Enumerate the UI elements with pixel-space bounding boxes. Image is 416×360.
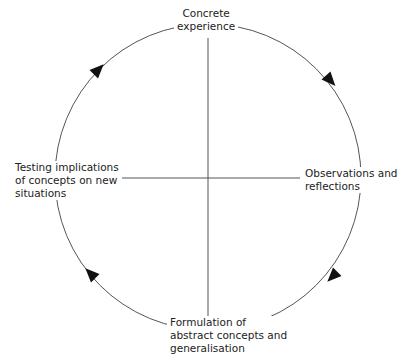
stage-line: reflections [305,180,398,193]
stage-observations-reflections: Observations and reflections [302,167,401,193]
stage-line: Observations and [305,167,398,180]
stage-line: Testing implications [15,161,119,174]
stage-line: Formulation of [170,316,287,329]
stage-line: situations [15,187,119,200]
stage-line: abstract concepts and [170,329,287,342]
arrow-top-right-icon [322,72,340,90]
stage-concrete-experience: Concrete experience [174,7,238,33]
stage-abstract-concepts: Formulation of abstract concepts and gen… [167,316,290,355]
stage-line: experience [177,20,235,33]
stage-line: generalisation [170,342,287,355]
stage-testing-implications: Testing implications of concepts on new … [12,161,122,200]
stage-line: of concepts on new [15,174,119,187]
arrow-bottom-right-icon [323,268,341,286]
arrow-top-left-icon [90,60,108,78]
stage-line: Concrete [177,7,235,20]
